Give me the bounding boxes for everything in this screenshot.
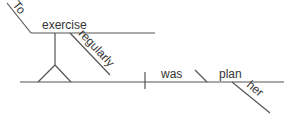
predicate-complement-divider (195, 70, 207, 82)
pedestal-right-leg (55, 65, 71, 82)
word-exercise: exercise (42, 18, 87, 32)
pedestal-left-leg (38, 65, 55, 82)
sentence-diagram: To exercise regularly was plan her (0, 0, 288, 119)
word-to: To (10, 0, 29, 17)
word-her: her (244, 78, 266, 100)
word-was: was (160, 67, 182, 81)
word-plan: plan (219, 67, 242, 81)
